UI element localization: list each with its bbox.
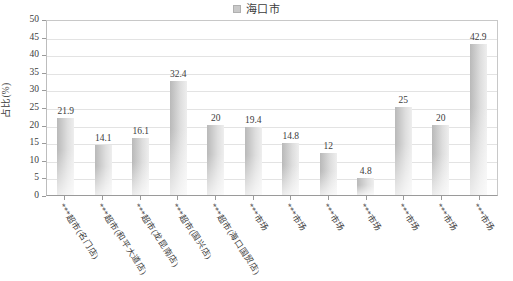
x-label-slot: ***市场: [347, 200, 385, 281]
bar[interactable]: 20: [207, 125, 224, 195]
bar[interactable]: 16.1: [132, 138, 149, 195]
x-axis-tick-label: ***市场: [283, 202, 308, 233]
bar[interactable]: 42.9: [470, 44, 487, 195]
x-label-slot: ***超市(海口国贸店): [197, 200, 235, 281]
bar-slot: 25: [385, 21, 423, 195]
y-axis-tick-label: 45: [30, 33, 40, 43]
bar-value-label: 20: [436, 113, 446, 123]
x-axis-tick-label: ***市场: [246, 202, 271, 233]
x-label-slot: ***市场: [460, 200, 498, 281]
legend-series-label: 海口市: [246, 4, 280, 15]
x-axis-tick-labels: ***超市(名门店)***超市(和平大道店)***超市(龙昆南店)***超市(国…: [46, 200, 498, 281]
chart-legend: 海口市: [0, 1, 513, 17]
y-axis-tick-label: 40: [30, 50, 40, 60]
bar-value-label: 25: [399, 95, 409, 105]
y-axis-tick-label: 50: [30, 15, 40, 25]
bar[interactable]: 20: [432, 125, 449, 195]
x-label-slot: ***超市(和平大道店): [84, 200, 122, 281]
bar-slot: 14.1: [85, 21, 123, 195]
bar-value-label: 21.9: [57, 106, 74, 116]
x-axis-tick-label: ***市场: [472, 202, 497, 233]
y-axis-title: 占比(%): [0, 83, 12, 118]
plot-area: 21.914.116.132.42019.414.8124.8252042.9: [46, 20, 498, 196]
x-label-slot: ***市场: [385, 200, 423, 281]
bar-value-label: 32.4: [170, 69, 187, 79]
x-label-slot: ***市场: [310, 200, 348, 281]
x-label-slot: ***超市(名门店): [46, 200, 84, 281]
bar-slot: 4.8: [347, 21, 385, 195]
bar[interactable]: 21.9: [57, 118, 74, 195]
bar-value-label: 14.1: [95, 133, 112, 143]
x-label-slot: ***市场: [423, 200, 461, 281]
legend-swatch-icon: [233, 5, 241, 13]
x-axis-tick-label: ***市场: [359, 202, 384, 233]
y-axis-tick-label: 30: [30, 86, 40, 96]
bar-value-label: 4.8: [360, 166, 372, 176]
bar[interactable]: 12: [320, 153, 337, 195]
bar-value-label: 20: [211, 113, 221, 123]
bar-series: 21.914.116.132.42019.414.8124.8252042.9: [47, 21, 497, 195]
bar-slot: 42.9: [460, 21, 498, 195]
y-axis-tick-label: 5: [34, 174, 39, 184]
bar-slot: 20: [197, 21, 235, 195]
bar[interactable]: 25: [395, 107, 412, 195]
bar-slot: 19.4: [235, 21, 273, 195]
bar-slot: 14.8: [272, 21, 310, 195]
y-axis-tick-label: 25: [30, 103, 40, 113]
bar-slot: 21.9: [47, 21, 85, 195]
bar[interactable]: 14.1: [95, 145, 112, 195]
y-axis-tick-label: 0: [34, 191, 39, 201]
y-axis: 占比(%) 50454035302520151050: [0, 20, 46, 196]
bar-value-label: 16.1: [132, 126, 149, 136]
x-axis-tick-label: ***市场: [321, 202, 346, 233]
y-axis-tick-label: 35: [30, 68, 40, 78]
bar[interactable]: 4.8: [357, 178, 374, 195]
x-label-slot: ***市场: [234, 200, 272, 281]
y-axis-tick-label: 15: [30, 138, 40, 148]
bar-value-label: 14.8: [282, 131, 299, 141]
bar-chart: 海口市 占比(%) 50454035302520151050 21.914.11…: [0, 0, 513, 281]
x-axis-tick-label: ***市场: [396, 202, 421, 233]
bar-value-label: 12: [324, 141, 334, 151]
bar-slot: 12: [310, 21, 348, 195]
y-axis-tick-label: 20: [30, 121, 40, 131]
bar-value-label: 42.9: [470, 32, 487, 42]
bar-slot: 32.4: [160, 21, 198, 195]
bar-slot: 16.1: [122, 21, 160, 195]
x-label-slot: ***超市(国兴店): [159, 200, 197, 281]
bar-slot: 20: [422, 21, 460, 195]
x-label-slot: ***超市(龙昆南店): [121, 200, 159, 281]
x-label-slot: ***市场: [272, 200, 310, 281]
y-axis-tick-label: 10: [30, 156, 40, 166]
bar[interactable]: 32.4: [170, 81, 187, 195]
x-axis-tick-label: ***市场: [434, 202, 459, 233]
bar[interactable]: 14.8: [282, 143, 299, 195]
bar[interactable]: 19.4: [245, 127, 262, 195]
bar-value-label: 19.4: [245, 115, 262, 125]
